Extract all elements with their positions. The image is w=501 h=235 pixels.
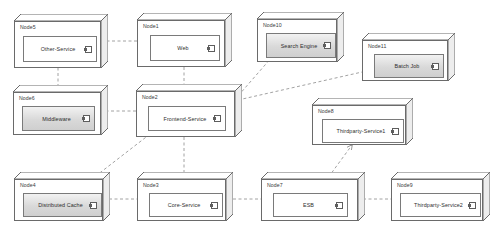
component-esb[interactable]: ESB <box>273 193 348 217</box>
node-label: Node3 <box>143 182 159 189</box>
component-web[interactable]: Web <box>150 35 220 61</box>
node-face: Node6Middleware <box>13 92 101 135</box>
uml-component-icon <box>469 202 476 209</box>
component-batch-job[interactable]: Batch Job <box>374 54 444 78</box>
node-face: Node3Core-Service <box>137 179 226 221</box>
component-thirdparty-service2[interactable]: Thirdparty-Service2 <box>400 193 481 217</box>
deployment-node-node2[interactable]: Node2Frontend-Service <box>136 84 242 137</box>
deployment-node-node4[interactable]: Node4Distributed Cache <box>14 172 110 221</box>
uml-component-icon <box>336 202 343 209</box>
uml-component-icon <box>90 202 97 209</box>
component-other-service[interactable]: Other-Service <box>23 36 97 62</box>
uml-component-icon <box>214 115 221 122</box>
uml-component-icon <box>211 202 218 209</box>
node-face: Node2Frontend-Service <box>136 91 235 137</box>
node-label: Node7 <box>267 182 283 189</box>
component-search-engine[interactable]: Search Engine <box>266 33 336 58</box>
node-label: Node11 <box>368 43 386 50</box>
node-face: Node7ESB <box>261 179 358 221</box>
component-distributed-cache[interactable]: Distributed Cache <box>23 193 102 217</box>
component-label: Middleware <box>42 115 71 123</box>
component-thirdparty-service1[interactable]: Thirdparty-Service1 <box>322 119 404 143</box>
deployment-node-node3[interactable]: Node3Core-Service <box>137 172 233 221</box>
node-face: Node9Thirdparty-Service2 <box>391 179 483 221</box>
node-label: Node8 <box>318 108 334 115</box>
node-face: Node8Thirdparty-Service1 <box>312 105 406 145</box>
node-label: Node6 <box>19 95 35 102</box>
edge-node2-to-node11 <box>238 70 371 100</box>
deployment-node-node6[interactable]: Node6Middleware <box>13 85 108 135</box>
deployment-diagram-canvas: Node5Other-ServiceNode1WebNode10Search E… <box>0 0 501 235</box>
component-label: Thirdparty-Service2 <box>414 201 463 209</box>
uml-component-icon <box>432 63 439 70</box>
node-face: Node5Other-Service <box>14 21 101 68</box>
node-face: Node11Batch Job <box>362 40 448 81</box>
node-label: Node2 <box>142 94 158 101</box>
component-frontend-service[interactable]: Frontend-Service <box>148 106 226 131</box>
component-label: Thirdparty-Service1 <box>337 127 386 135</box>
component-label: Core-Service <box>168 201 201 209</box>
node-face: Node4Distributed Cache <box>14 179 103 221</box>
deployment-node-node5[interactable]: Node5Other-Service <box>14 14 108 68</box>
node-face: Node1Web <box>137 20 225 67</box>
node-label: Node10 <box>263 22 282 29</box>
uml-component-icon <box>392 128 399 135</box>
uml-component-icon <box>83 115 90 122</box>
node-label: Node1 <box>143 23 159 30</box>
component-label: Web <box>177 44 188 52</box>
component-label: Distributed Cache <box>38 201 83 209</box>
deployment-node-node8[interactable]: Node8Thirdparty-Service1 <box>312 98 413 145</box>
component-label: Search Engine <box>281 42 318 50</box>
uml-component-icon <box>85 46 92 53</box>
component-middleware[interactable]: Middleware <box>22 106 95 131</box>
node-label: Node5 <box>20 24 36 31</box>
component-core-service[interactable]: Core-Service <box>149 193 223 217</box>
component-label: Other-Service <box>41 45 76 53</box>
component-label: Frontend-Service <box>164 115 207 123</box>
deployment-node-node10[interactable]: Node10Search Engine <box>257 12 344 62</box>
deployment-node-node9[interactable]: Node9Thirdparty-Service2 <box>391 172 490 221</box>
node-face: Node10Search Engine <box>257 19 337 62</box>
node-label: Node4 <box>20 182 36 189</box>
component-label: ESB <box>303 201 314 209</box>
uml-component-icon <box>324 42 331 49</box>
deployment-node-node7[interactable]: Node7ESB <box>261 172 365 221</box>
deployment-node-node11[interactable]: Node11Batch Job <box>362 33 455 81</box>
component-label: Batch Job <box>395 62 420 70</box>
uml-component-icon <box>208 45 215 52</box>
node-label: Node9 <box>397 182 413 189</box>
deployment-node-node1[interactable]: Node1Web <box>137 13 232 67</box>
